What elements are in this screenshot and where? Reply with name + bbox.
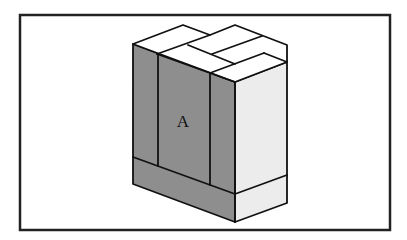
- block-stack-diagram: A: [0, 0, 407, 240]
- block-label: A: [177, 112, 190, 131]
- right-face: [235, 62, 287, 222]
- diagram-canvas: A: [0, 0, 407, 240]
